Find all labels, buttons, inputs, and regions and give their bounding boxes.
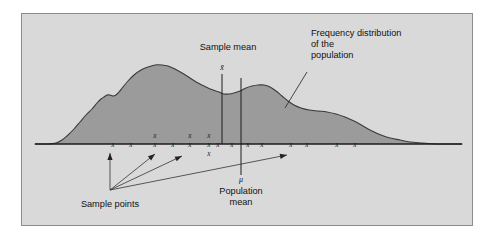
sample-point-x-mark: x	[245, 140, 250, 149]
population-mean-line-1: Population	[219, 186, 262, 196]
sample-point-x-mark: x	[128, 140, 133, 149]
distribution-diagram-svg: xxxxxxxxxxxxxxxxxx Sample mean x̄ Freque…	[0, 0, 493, 239]
frequency-distribution-line-3: population	[311, 50, 353, 60]
sample-point-x-mark: x	[288, 140, 293, 149]
figure-root: xxxxxxxxxxxxxxxxxx Sample mean x̄ Freque…	[0, 0, 493, 239]
sample-point-x-mark: x	[206, 131, 211, 140]
sample-point-x-mark: x	[334, 140, 339, 149]
sample-point-x-mark: x	[170, 140, 175, 149]
sample-point-x-mark: x	[206, 140, 211, 149]
sample-mean-symbol: x̄	[219, 63, 224, 72]
sample-mean-label: Sample mean	[200, 42, 257, 52]
sample-points-label: Sample points	[81, 199, 140, 209]
sample-point-x-mark: x	[152, 140, 157, 149]
sample-point-x-mark: x	[206, 149, 211, 158]
frequency-distribution-line-1: Frequency distribution	[311, 28, 401, 38]
sample-point-x-mark: x	[352, 140, 357, 149]
population-mean-symbol: μ	[238, 175, 243, 184]
sample-point-x-mark: x	[229, 140, 234, 149]
population-mean-line-2: mean	[230, 197, 253, 207]
sample-point-x-mark: x	[304, 140, 309, 149]
sample-point-x-mark: x	[187, 131, 192, 140]
sample-point-x-mark: x	[259, 140, 264, 149]
sample-point-x-mark: x	[110, 140, 115, 149]
sample-point-x-mark: x	[187, 140, 192, 149]
frequency-distribution-line-2: of the	[311, 39, 334, 49]
sample-point-x-mark: x	[152, 131, 157, 140]
sample-point-x-mark: x	[215, 140, 220, 149]
